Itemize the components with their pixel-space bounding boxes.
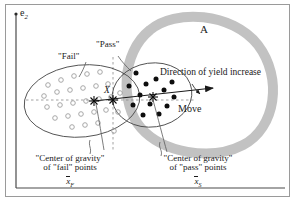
acceptability-region-band xyxy=(127,17,273,154)
cog-fail-brace xyxy=(89,140,90,154)
pass-cluster-label: "Pass" xyxy=(96,40,119,49)
cog-fail-leader xyxy=(96,104,104,150)
move-label: Move xyxy=(178,104,201,115)
cog-fail-caption-line2: of "fail" points xyxy=(16,163,124,172)
cog-fail-caption: "Center of gravity" of "fail" points xyxy=(16,154,124,173)
y-axis-label: e2 xyxy=(20,8,28,20)
fail-points xyxy=(42,70,123,134)
current-point-marker xyxy=(108,95,118,105)
current-point-label: X xyxy=(104,86,110,96)
centroid-fail-marker xyxy=(89,96,99,106)
region-a-label: A xyxy=(200,24,208,36)
cog-pass-caption-line2: of "pass" points xyxy=(144,163,252,172)
figure-canvas: e2 A "Pass" "Fail" Direction of yield in… xyxy=(0,0,295,202)
direction-label-leader xyxy=(192,84,200,94)
xbar-pass-label: xS xyxy=(144,177,252,188)
fail-cluster-label: "Fail" xyxy=(58,52,79,61)
direction-of-yield-increase-label: Direction of yield increase xyxy=(160,68,261,78)
xbar-fail-label: xF xyxy=(16,177,124,188)
cog-pass-caption: "Center of gravity" of "pass" points xyxy=(144,154,252,173)
